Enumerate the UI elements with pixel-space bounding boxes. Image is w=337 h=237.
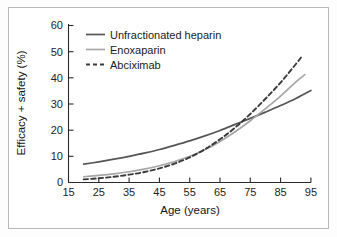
series-line-enoxaparin [84,75,305,177]
y-tick-label: 30 [51,98,63,110]
y-tick-label: 60 [51,19,63,31]
x-tick-label: 65 [214,186,226,198]
y-tick-label: 40 [51,72,63,84]
x-tick-label: 45 [153,186,165,198]
x-tick-label: 55 [184,186,196,198]
axis-group [69,24,312,183]
y-tick-marks [69,26,74,183]
figure-root: 0 10 20 30 40 50 60 15 25 35 45 55 65 75… [0,0,337,237]
legend-label-abciximab: Abciximab [110,59,161,71]
x-tick-marks [69,178,311,183]
legend: Unfractionated heparin Enoxaparin Abcixi… [86,29,221,71]
y-tick-label: 10 [51,150,63,162]
x-tick-label: 85 [274,186,286,198]
y-tick-label: 20 [51,124,63,136]
y-tick-labels: 0 10 20 30 40 50 60 [51,19,63,188]
x-tick-label: 95 [305,186,317,198]
x-tick-label: 75 [244,186,256,198]
y-axis-title: Efficacy + safety (%) [15,50,27,155]
legend-label-unfractionated-heparin: Unfractionated heparin [110,29,221,41]
x-tick-labels: 15 25 35 45 55 65 75 85 95 [62,186,317,198]
legend-label-enoxaparin: Enoxaparin [110,44,166,56]
line-chart: 0 10 20 30 40 50 60 15 25 35 45 55 65 75… [0,0,337,237]
x-axis-title: Age (years) [160,204,220,216]
series-line-abciximab [84,56,302,179]
x-tick-label: 25 [93,186,105,198]
x-tick-label: 35 [123,186,135,198]
series-group [84,56,311,179]
x-tick-label: 15 [62,186,74,198]
y-tick-label: 50 [51,46,63,58]
